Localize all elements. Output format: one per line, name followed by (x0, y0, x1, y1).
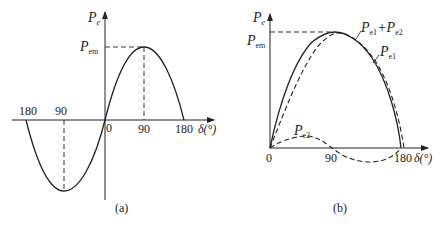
tick-right-90: 90 (138, 122, 150, 136)
tick-left-90: 90 (55, 104, 67, 118)
y-axis-label-b: Pe (252, 10, 266, 27)
caption-a: (a) (115, 201, 128, 215)
pe1-curve-label: Pe1 (379, 44, 396, 61)
tick-b-90: 90 (325, 151, 337, 165)
pem-label-a: Pem (79, 39, 99, 56)
pem-label-b: Pem (246, 33, 266, 50)
pe2-curve-label: Pe2 (293, 123, 310, 140)
y-axis-label-a: Pe (87, 10, 101, 27)
tick-b-180: 180 (394, 151, 412, 165)
origin-label-b: 0 (266, 151, 272, 165)
panel-a: Pe Pem 180 90 0 90 180 δ(°) (a) (12, 10, 216, 215)
tick-right-180: 180 (175, 122, 193, 136)
x-axis-label-a: δ(°) (198, 122, 216, 136)
diagram-canvas: Pe Pem 180 90 0 90 180 δ(°) (a) Pe Pem P… (0, 0, 444, 228)
panel-b: Pe Pem Pe1+Pe2 Pe1 Pe2 0 90 180 δ(°) (b) (246, 10, 432, 215)
caption-b: (b) (333, 201, 347, 215)
x-axis-label-b: δ(°) (414, 151, 432, 165)
sum-curve-label: Pe1+Pe2 (360, 20, 403, 37)
tick-left-180: 180 (19, 104, 37, 118)
origin-label-a: 0 (106, 121, 112, 135)
